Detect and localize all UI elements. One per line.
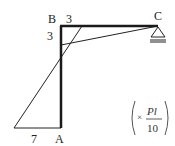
value-beam-at-B: 3 (66, 13, 72, 25)
node-label-C: C (154, 10, 162, 22)
node-label-B: B (48, 13, 56, 25)
value-column-at-B: 3 (47, 30, 53, 42)
unit-numerator: Pl (147, 105, 157, 117)
node-label-A: A (55, 133, 64, 145)
roller-support-icon (150, 27, 166, 42)
unit-prefix: × (137, 112, 142, 122)
unit-denominator: 10 (147, 122, 158, 134)
unit-annotation: × Pl 10 (130, 98, 170, 138)
value-column-at-A: 7 (31, 133, 37, 145)
